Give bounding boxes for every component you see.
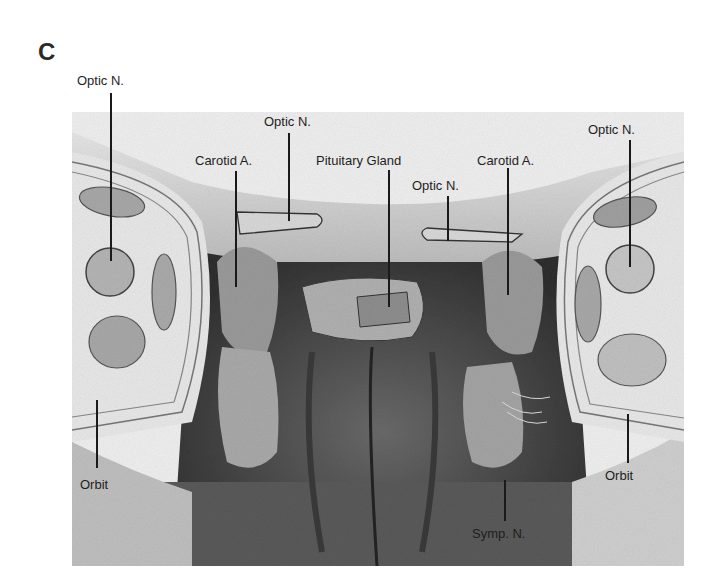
label-optic-n-center-right: Optic N. <box>412 178 459 193</box>
label-optic-n-far-right: Optic N. <box>588 122 635 137</box>
label-carotid-a-right: Carotid A. <box>477 153 534 168</box>
leader-line-symp-n <box>504 480 506 521</box>
leader-line-optic-n-far-left <box>110 93 112 261</box>
label-symp-n: Symp. N. <box>472 526 525 541</box>
leader-line-optic-n-center-right <box>447 196 449 241</box>
label-carotid-a-left: Carotid A. <box>195 153 252 168</box>
leader-line-optic-n-far-right <box>629 140 631 267</box>
leader-line-orbit-right <box>627 414 629 463</box>
anatomical-dissection-photo <box>72 112 684 566</box>
label-orbit-right: Orbit <box>605 468 633 483</box>
label-pituitary-gland: Pituitary Gland <box>316 153 401 168</box>
leader-line-pituitary-gland <box>388 170 390 307</box>
leader-line-carotid-a-right <box>507 168 509 295</box>
leader-line-carotid-a-left <box>235 171 237 287</box>
panel-letter: C <box>38 38 55 66</box>
leader-line-orbit-left <box>96 400 98 468</box>
leader-line-optic-n-left <box>288 133 290 221</box>
label-orbit-left: Orbit <box>80 477 108 492</box>
label-optic-n-left: Optic N. <box>264 114 311 129</box>
label-optic-n-far-left: Optic N. <box>77 73 124 88</box>
